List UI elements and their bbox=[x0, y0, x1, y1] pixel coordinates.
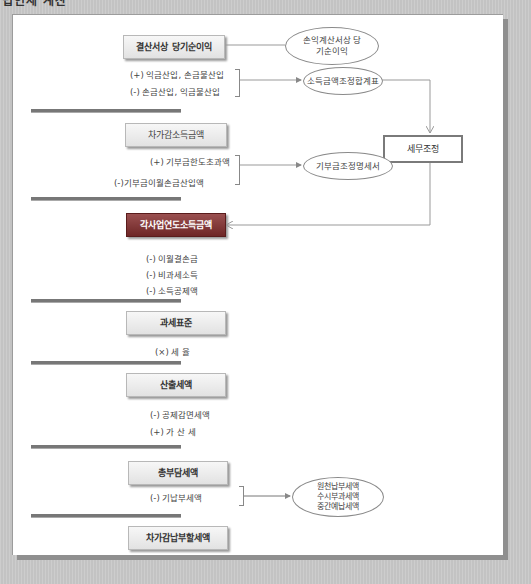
diagram-frame: 결산서상 당기순이익 손익계산서상 당 기순이익 (+) 익금산입, 손금불산입… bbox=[12, 14, 503, 555]
bracket-1 bbox=[235, 69, 240, 97]
divider-6 bbox=[31, 514, 181, 518]
tax-credit-item: (-) 공제감면세액 bbox=[150, 408, 210, 420]
page-heading: 법인세 계산 bbox=[2, 0, 67, 8]
tax-payable-box: 차가감납부할세액 bbox=[128, 526, 228, 550]
nontaxable-item: (-) 비과세소득 bbox=[146, 268, 198, 280]
tax-rate-item: (×) 세 율 bbox=[155, 345, 190, 357]
ellipse-line: 기순이익 bbox=[303, 46, 362, 57]
divider-2 bbox=[31, 197, 181, 201]
ellipse-line: 손익계산서상 당 bbox=[303, 35, 362, 46]
calculated-tax-box: 산출세액 bbox=[126, 373, 226, 397]
bracket-2 bbox=[235, 155, 240, 185]
connector-lines bbox=[13, 15, 503, 555]
tax-base-box: 과세표준 bbox=[126, 311, 226, 335]
loss-carryover-item: (-) 이월결손금 bbox=[146, 252, 198, 264]
business-year-income-box: 각사업연도소득금액 bbox=[126, 213, 226, 237]
prepaid-tax-item: (-) 기납부세액 bbox=[150, 491, 202, 503]
divider-1 bbox=[31, 109, 181, 113]
donation-excess-item: (+) 기부금한도초과액 bbox=[150, 155, 230, 167]
income-statement-ellipse: 손익계산서상 당 기순이익 bbox=[285, 27, 379, 65]
adjusted-income-box: 차가감소득금액 bbox=[125, 123, 227, 147]
ellipse-line: 기부금조정명세서 bbox=[316, 161, 380, 172]
prepaid-detail-ellipse: 원천납부세액 수시부과세액 중간예납세액 bbox=[292, 477, 384, 517]
bracket-3 bbox=[239, 486, 244, 506]
ellipse-line: 소득금액조정합계표 bbox=[307, 76, 379, 87]
ellipse-line: 원천납부세액 bbox=[317, 482, 359, 492]
divider-3 bbox=[31, 299, 181, 303]
income-add-item: (+) 익금산입, 손금불산입 bbox=[130, 68, 224, 80]
ellipse-line: 중간예납세액 bbox=[317, 502, 359, 512]
penalty-tax-item: (+) 가 산 세 bbox=[150, 425, 196, 437]
divider-5 bbox=[31, 445, 181, 449]
ellipse-line: 수시부과세액 bbox=[317, 492, 359, 502]
income-deduction-item: (-) 소득공제액 bbox=[146, 284, 198, 296]
adjustment-statement-ellipse: 소득금액조정합계표 bbox=[303, 67, 383, 95]
income-sub-item: (-) 손금산입, 익금불산입 bbox=[130, 85, 220, 97]
tax-adjustment-box: 세무조정 bbox=[383, 135, 463, 163]
total-tax-burden-box: 총부담세액 bbox=[128, 461, 228, 485]
donation-statement-ellipse: 기부금조정명세서 bbox=[303, 152, 393, 180]
net-income-box: 결산서상 당기순이익 bbox=[123, 35, 225, 59]
donation-carryover-item: (-)기부금이월손금산입액 bbox=[114, 176, 204, 188]
divider-4 bbox=[31, 361, 181, 365]
